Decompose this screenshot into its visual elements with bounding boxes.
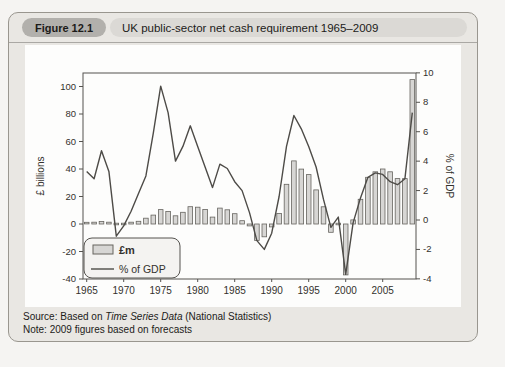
left-axis-ticks: -40-20020406080100 xyxy=(60,81,83,285)
bar-1987 xyxy=(247,224,252,226)
figure-footnotes: Source: Based on Time Series Data (Natio… xyxy=(23,310,271,336)
bar-1995 xyxy=(306,175,311,224)
bar-1971 xyxy=(129,222,134,224)
bar-1972 xyxy=(136,221,141,224)
bar-2003 xyxy=(366,177,371,224)
svg-text:1965: 1965 xyxy=(76,285,99,296)
svg-text:1985: 1985 xyxy=(224,285,247,296)
svg-text:1975: 1975 xyxy=(150,285,173,296)
bar-1977 xyxy=(173,216,178,224)
svg-text:1990: 1990 xyxy=(261,285,284,296)
bar-1974 xyxy=(151,215,156,224)
svg-text:-40: -40 xyxy=(62,273,76,284)
bar-1993 xyxy=(292,161,297,224)
svg-text:8: 8 xyxy=(423,96,428,107)
bar-1980 xyxy=(195,207,200,224)
figure-header: Figure 12.1 UK public-sector net cash re… xyxy=(9,13,477,43)
chart-svg: -40-20020406080100-4-2024681019651970197… xyxy=(25,45,461,307)
bar-1983 xyxy=(218,208,223,224)
svg-text:100: 100 xyxy=(60,81,76,92)
source-suffix: (National Statistics) xyxy=(182,311,271,322)
x-axis-ticks: 196519701975198019851990199520002005 xyxy=(76,279,395,296)
bar-1979 xyxy=(188,207,193,224)
right-axis-ticks: -4-20246810 xyxy=(416,67,434,284)
svg-text:20: 20 xyxy=(65,191,76,202)
svg-text:60: 60 xyxy=(65,136,76,147)
bar-1973 xyxy=(144,218,149,224)
bar-2007 xyxy=(395,179,400,224)
figure-number-badge: Figure 12.1 xyxy=(22,18,106,37)
left-axis-title: £ billions xyxy=(35,157,46,196)
svg-text:6: 6 xyxy=(423,126,428,137)
bar-2008 xyxy=(403,179,408,224)
legend: £m% of GDP xyxy=(84,238,180,278)
svg-text:2000: 2000 xyxy=(335,285,358,296)
bar-1984 xyxy=(225,210,230,224)
svg-text:-20: -20 xyxy=(62,246,76,257)
bar-1967 xyxy=(99,221,104,224)
svg-text:1980: 1980 xyxy=(187,285,210,296)
bar-1981 xyxy=(203,209,208,224)
svg-text:10: 10 xyxy=(423,67,434,78)
bar-1989 xyxy=(262,224,267,237)
bar-1986 xyxy=(240,221,245,224)
bar-1997 xyxy=(321,207,326,224)
bar-2009 xyxy=(410,80,415,224)
source-line: Source: Based on Time Series Data (Natio… xyxy=(23,310,271,323)
svg-text:80: 80 xyxy=(65,108,76,119)
source-title-italic: Time Series Data xyxy=(105,311,182,322)
svg-text:1970: 1970 xyxy=(113,285,136,296)
legend-bar-label: £m xyxy=(119,244,135,256)
bar-2004 xyxy=(373,172,378,224)
bar-1994 xyxy=(299,169,304,224)
svg-text:-4: -4 xyxy=(423,273,431,284)
bar-1975 xyxy=(158,210,163,224)
bar-1992 xyxy=(284,184,289,224)
legend-bar-swatch xyxy=(93,245,113,254)
chart-card: -40-20020406080100-4-2024681019651970197… xyxy=(25,45,461,307)
bar-1996 xyxy=(314,190,319,224)
figure-panel: Figure 12.1 UK public-sector net cash re… xyxy=(8,12,478,342)
svg-text:0: 0 xyxy=(423,214,428,225)
svg-text:2005: 2005 xyxy=(372,285,395,296)
legend-line-label: % of GDP xyxy=(119,263,166,275)
svg-text:0: 0 xyxy=(71,218,76,229)
note-line: Note: 2009 figures based on forecasts xyxy=(23,323,271,336)
svg-text:1995: 1995 xyxy=(298,285,321,296)
svg-text:2: 2 xyxy=(423,185,428,196)
right-axis-title: % of GDP xyxy=(444,154,455,199)
bar-1985 xyxy=(232,214,237,224)
svg-text:40: 40 xyxy=(65,163,76,174)
bar-2005 xyxy=(380,169,385,224)
bar-1978 xyxy=(181,212,186,224)
bar-1968 xyxy=(107,222,112,224)
bar-1966 xyxy=(92,222,97,224)
bar-1982 xyxy=(210,217,215,224)
source-text: Source: Based on xyxy=(23,311,105,322)
svg-text:-2: -2 xyxy=(423,243,431,254)
svg-text:4: 4 xyxy=(423,155,428,166)
bar-1965 xyxy=(84,222,89,224)
bar-1991 xyxy=(277,213,282,224)
figure-title: UK public-sector net cash requirement 19… xyxy=(110,18,467,37)
bar-1976 xyxy=(166,212,171,225)
